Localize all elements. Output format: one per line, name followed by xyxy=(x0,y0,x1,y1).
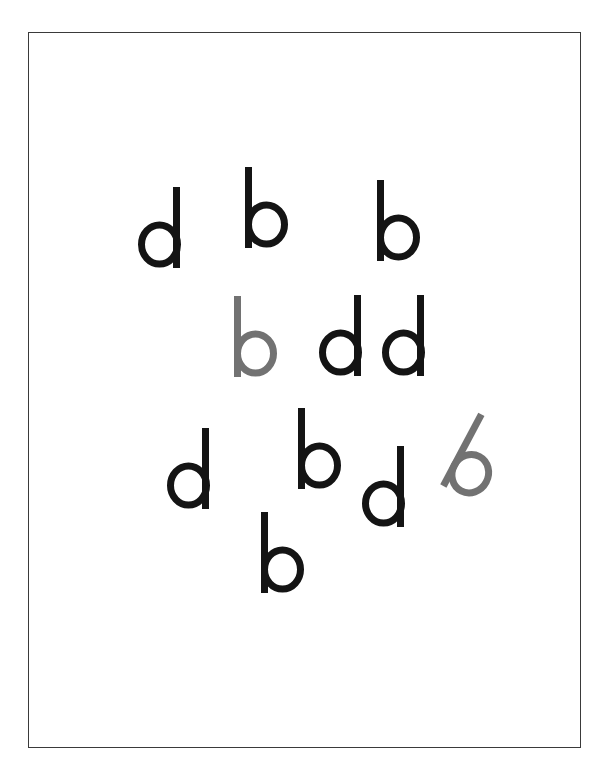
letter-b: b xyxy=(244,167,288,248)
letter-d: d xyxy=(318,295,362,376)
letter-d: d xyxy=(381,295,425,376)
letter-d: d xyxy=(137,187,181,268)
letter-d: d xyxy=(361,446,405,527)
letter-b: b xyxy=(233,296,277,377)
letter-b: b xyxy=(260,512,304,593)
letter-b: b xyxy=(297,408,341,489)
stimulus-frame xyxy=(28,32,581,748)
letter-b: b xyxy=(376,180,420,261)
letter-d: d xyxy=(166,428,210,509)
